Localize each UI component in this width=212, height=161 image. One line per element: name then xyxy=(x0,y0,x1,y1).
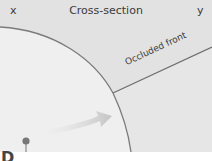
occluded-front-diagram: x Cross-section y Occluded front D xyxy=(0,0,212,161)
axis-label-y: y xyxy=(197,5,204,17)
location-pin-icon xyxy=(22,137,29,144)
diagram-title: Cross-section xyxy=(0,5,212,17)
diagram-graphics xyxy=(0,0,212,152)
panel-letter: D xyxy=(1,150,14,161)
